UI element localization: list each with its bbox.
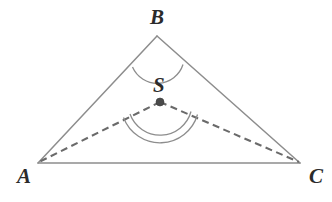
vertex-label-S: S <box>153 73 165 97</box>
vertex-label-B: B <box>149 5 164 29</box>
angle-arc-at-S-outer <box>124 115 198 143</box>
angle-arc-at-S-inner <box>130 112 191 136</box>
segment-side-BC <box>157 36 300 163</box>
vertex-label-C: C <box>309 164 324 188</box>
geometry-figure: A B C S <box>0 0 332 202</box>
segment-cevian-SC <box>160 102 299 162</box>
point-marker-S <box>156 98 164 106</box>
segment-side-AB <box>38 36 157 163</box>
vertex-label-A: A <box>15 164 31 188</box>
segment-cevian-SA <box>39 102 160 162</box>
